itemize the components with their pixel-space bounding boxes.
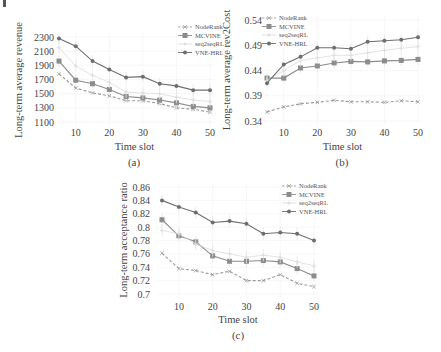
grid [158, 183, 318, 298]
plus-marker-icon [211, 249, 215, 253]
y-tick-label: 0.8 [138, 222, 151, 233]
x-tick-label: 40 [275, 301, 285, 312]
circle-marker-icon [177, 205, 181, 209]
acceptance-ratio-chart: 0.70.720.740.760.780.80.820.840.86102030… [0, 0, 441, 352]
circle-marker-icon [312, 239, 316, 243]
series-line [162, 200, 314, 240]
plus-marker-icon [287, 201, 291, 205]
circle-marker-icon [228, 219, 232, 223]
series-line [162, 230, 314, 265]
y-tick-label: 0.76 [133, 248, 151, 259]
plus-marker-icon [160, 228, 164, 232]
x-axis-ticks: 1020304050 [174, 301, 319, 312]
x-tick-label: 10 [174, 301, 184, 312]
circle-marker-icon [211, 220, 215, 224]
plus-marker-icon [244, 255, 248, 259]
y-tick-label: 0.74 [133, 262, 151, 273]
x-marker-icon [228, 269, 232, 273]
square-marker-icon [160, 218, 164, 222]
legend-label: seq2seqRL [299, 199, 328, 206]
circle-marker-icon [295, 232, 299, 236]
y-tick-label: 0.82 [133, 208, 151, 219]
series-line [162, 253, 314, 286]
y-tick-label: 0.86 [133, 182, 151, 193]
plus-marker-icon [228, 252, 232, 256]
y-tick-label: 0.84 [133, 195, 151, 206]
legend-label: NodeRank [299, 182, 328, 189]
y-axis-ticks: 0.70.720.740.760.780.80.820.840.86 [133, 182, 151, 300]
square-marker-icon [312, 274, 316, 278]
y-tick-label: 0.7 [138, 289, 151, 300]
circle-marker-icon [261, 232, 265, 236]
x-tick-label: 50 [309, 301, 319, 312]
x-marker-icon [295, 282, 299, 286]
y-tick-label: 0.78 [133, 235, 151, 246]
plus-marker-icon [278, 255, 282, 259]
circle-marker-icon [244, 222, 248, 226]
legend-label: MCVINE [299, 191, 325, 198]
circle-marker-icon [194, 210, 198, 214]
x-tick-label: 30 [241, 301, 251, 312]
circle-marker-icon [287, 210, 291, 214]
x-axis-label: Time slot [218, 314, 258, 325]
square-marker-icon [287, 193, 291, 197]
figure-caption: (c) [232, 329, 245, 342]
series-vne-hrl [160, 194, 316, 246]
series-mcvine [160, 214, 316, 282]
series-seq2seqrl [160, 224, 316, 271]
y-tick-label: 0.72 [133, 275, 151, 286]
legend-label: VNE-HRL [299, 208, 328, 215]
plus-marker-icon [295, 260, 299, 264]
x-marker-icon [160, 251, 164, 255]
y-axis-label: Long-term acceptance ratio [118, 182, 129, 297]
circle-marker-icon [278, 230, 282, 234]
circle-marker-icon [160, 198, 164, 202]
series-noderank [160, 251, 316, 288]
x-tick-label: 20 [208, 301, 218, 312]
